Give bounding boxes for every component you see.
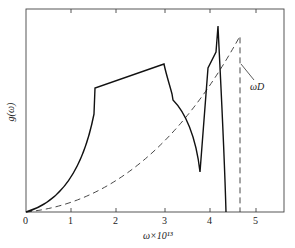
x-tick-label: 5 <box>253 215 258 226</box>
plot-frame <box>26 9 284 212</box>
omega-d-leader-line <box>241 64 254 80</box>
x-tick-label: 2 <box>113 215 118 226</box>
x-tick-label: 3 <box>162 215 167 226</box>
x-ticks <box>71 9 256 212</box>
x-tick-label: 1 <box>68 215 73 226</box>
dos-curve <box>26 26 226 212</box>
x-tick-label: 4 <box>207 215 212 226</box>
x-axis-label: ω×10¹³ <box>143 230 174 241</box>
chart: 0 1 2 3 4 5 ω×10¹³ g(ω) ωD <box>0 0 295 248</box>
y-axis-label: g(ω) <box>5 102 17 121</box>
debye-curve <box>26 36 240 212</box>
x-tick-label: 0 <box>23 215 28 226</box>
omega-d-annotation: ωD <box>250 81 265 92</box>
